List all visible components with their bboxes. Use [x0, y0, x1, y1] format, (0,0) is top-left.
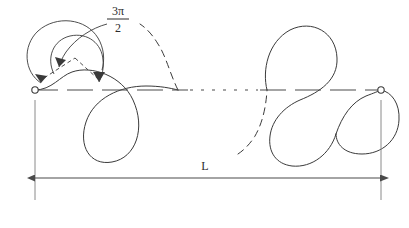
- right-endpoint-marker: [378, 87, 384, 93]
- loop-segment-3-fade-in: [238, 90, 267, 154]
- loop-segment-1: [35, 70, 178, 163]
- loop-segment-2-fade-out: [140, 24, 178, 90]
- angle-annotation-group: [27, 21, 107, 83]
- cycloid-curve-right-solid: [265, 26, 399, 166]
- loop-segment-5-below: [336, 90, 381, 134]
- angle-label-numerator: 3π: [112, 4, 124, 18]
- loop-segment-5-tail: [336, 90, 399, 154]
- left-endpoint-marker: [32, 87, 38, 93]
- cycloid-curve-left-solid: [35, 70, 178, 163]
- dimension-line-group: L: [35, 159, 381, 178]
- angle-arc-inner-arrowhead: [93, 72, 105, 82]
- angle-arc-outer-arrowhead: [35, 74, 47, 83]
- angle-label: 3π 2: [107, 4, 129, 35]
- angle-label-leader-arrowhead: [55, 57, 66, 67]
- angle-radius-right: [75, 58, 98, 79]
- angle-label-leader-line: [59, 24, 107, 67]
- dimension-label-L: L: [201, 159, 208, 173]
- figure-canvas: 3π 2 L: [0, 0, 409, 228]
- cycloid-figure: 3π 2 L: [0, 0, 409, 228]
- loop-segment-4-above: [265, 26, 337, 166]
- dimension-extension-lines: [35, 100, 381, 200]
- angle-label-denominator: 2: [115, 21, 121, 35]
- cycloid-curve-middle-dashed: [140, 24, 267, 154]
